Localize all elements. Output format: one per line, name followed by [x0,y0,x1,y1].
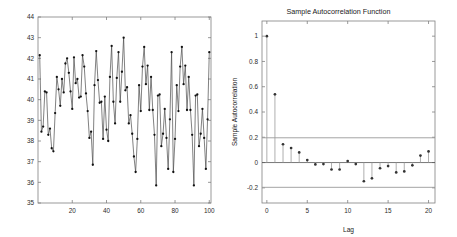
data-point [59,105,61,107]
data-point [105,128,107,130]
data-point [201,108,203,110]
data-point [205,168,207,170]
data-point [153,134,155,136]
data-point [208,51,210,53]
stem-marker [395,171,398,174]
data-point [102,138,104,140]
data-point [109,76,111,78]
y-tick-label: 36 [27,179,35,186]
data-point [200,133,202,135]
data-point [141,65,143,67]
data-point [88,137,90,139]
data-point [165,137,167,139]
data-point [193,184,195,186]
x-axis-label: Lag [343,226,354,234]
stem-marker [290,147,293,150]
y-tick-label: 44 [27,13,35,20]
data-point [124,89,126,91]
y-tick-label: 40 [27,96,35,103]
data-point [87,110,89,112]
y-tick-label: 38 [27,137,35,144]
stem-marker [322,163,325,166]
data-point [172,171,174,173]
data-point [39,54,41,56]
stem-marker [274,93,277,96]
stem-marker [314,163,317,166]
stem-marker [363,180,366,183]
x-tick-label: 20 [69,207,77,214]
data-point [64,62,66,64]
autocorrelation-panel: Sample Autocorrelation Function -0.200.2… [228,0,457,237]
data-point [95,50,97,52]
data-point [196,93,198,95]
data-point [85,92,87,94]
x-tick-label: 80 [171,207,179,214]
data-point [136,138,138,140]
x-tick-label: 10 [344,207,352,214]
data-point [69,90,71,92]
stem-marker [338,168,341,171]
x-tick-label: 60 [137,207,145,214]
data-point [45,91,47,93]
data-point [148,109,150,111]
data-point [206,118,208,120]
data-point [73,56,75,58]
data-point [51,147,53,149]
y-tick-label: 43 [27,34,35,41]
autocorrelation-plot-frame [262,21,435,203]
time-series-plot-frame [38,17,211,203]
data-point [114,122,116,124]
y-tick-label: 41 [27,75,35,82]
stem-marker [282,143,285,146]
data-point [155,184,157,186]
data-point [162,133,164,135]
data-point [164,108,166,110]
y-tick-label: 0 [254,159,258,166]
y-tick-label: 0.4 [249,108,258,115]
data-point [167,168,169,170]
data-point [107,140,109,142]
data-point [184,64,186,66]
data-point [191,134,193,136]
y-tick-label: -0.2 [247,184,258,191]
data-point [138,84,140,86]
stem-marker [427,150,430,153]
y-tick-label: 0.8 [249,58,258,65]
data-point [90,131,92,133]
data-point [160,145,162,147]
autocorrelation-stems [267,36,429,181]
data-point [203,137,205,139]
data-point [179,65,181,67]
data-point [119,101,121,103]
data-point [152,109,154,111]
stem-marker [403,170,406,173]
data-point [68,72,70,74]
data-point [54,112,56,114]
y-tick-label: 42 [27,55,35,62]
data-point [116,77,118,79]
y-tick-label: 39 [27,117,35,124]
data-point [71,108,73,110]
data-point [83,65,85,67]
time-series-chart: 3536373839404142434420406080100 [0,0,228,237]
data-point [198,145,200,147]
time-series-panel: 3536373839404142434420406080100 [0,0,228,237]
data-point [81,54,83,56]
data-point [52,150,54,152]
stem-marker [387,165,390,168]
x-tick-label: 0 [265,207,269,214]
data-point [97,79,99,81]
x-tick-label: 40 [103,207,111,214]
data-point [146,64,148,66]
stem-marker [298,151,301,154]
stem-marker [419,154,422,157]
stem-marker [306,159,309,162]
data-point [134,171,136,173]
data-point [170,51,172,53]
data-point [93,84,95,86]
data-point [63,91,65,93]
y-axis-label: Sample Autocorrelation [231,78,239,147]
y-tick-label: 37 [27,158,35,165]
stem-marker [354,163,357,166]
data-point [76,78,78,80]
